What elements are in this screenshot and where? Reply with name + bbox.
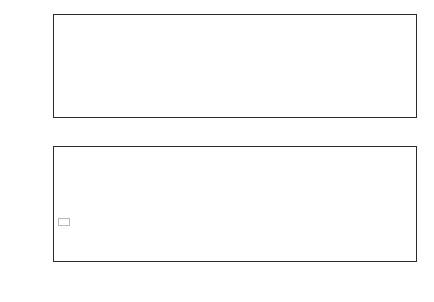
- legend: [58, 218, 70, 226]
- xtick-labels: [53, 265, 417, 279]
- top-panel-plot: [54, 15, 418, 119]
- bottom-panel-ytick-labels: [0, 146, 49, 262]
- bottom-panel-plot: [54, 147, 418, 263]
- top-panel-ytick-labels: [0, 14, 49, 118]
- bottom-panel-axes: [53, 146, 417, 262]
- top-panel-axes: [53, 14, 417, 118]
- figure-two-panel-chart: [0, 0, 434, 302]
